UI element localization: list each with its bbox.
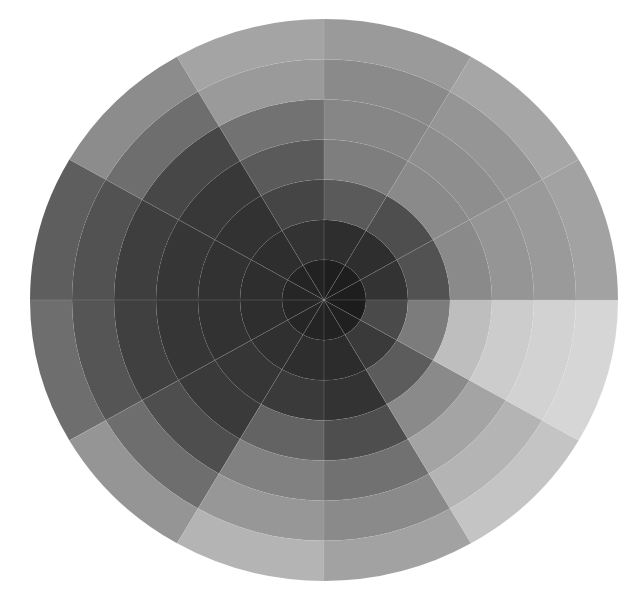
segmented-gray-wheel	[0, 0, 623, 592]
artwork-canvas	[0, 0, 623, 592]
